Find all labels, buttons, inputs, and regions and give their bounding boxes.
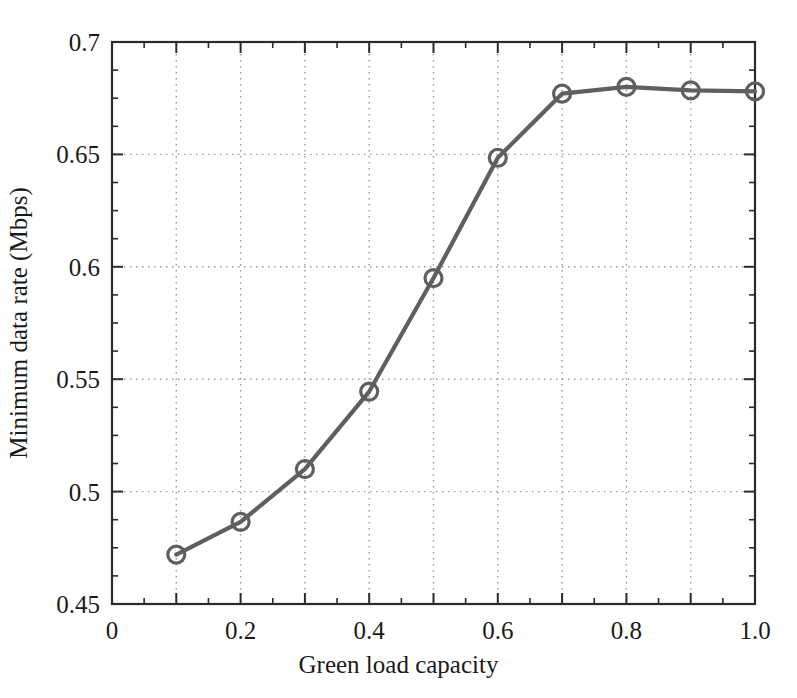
x-tick-label: 0.4 [354, 618, 385, 643]
chart-figure: 0.450.50.550.60.650.7 00.20.40.60.81.0 G… [0, 0, 797, 698]
data-point-marker [296, 461, 313, 478]
data-point-marker [747, 83, 764, 100]
y-axis-title: Minimum data rate (Mbps) [6, 187, 31, 458]
x-tick-label: 0.6 [482, 618, 513, 643]
grid-lines [112, 42, 755, 604]
y-tick-label: 0.45 [0, 592, 100, 617]
x-tick-label: 0.2 [225, 618, 256, 643]
data-point-marker [425, 270, 442, 287]
y-tick-label: 0.7 [0, 30, 100, 55]
data-point-markers [168, 78, 764, 563]
data-point-marker [682, 82, 699, 99]
data-point-marker [489, 149, 506, 166]
y-tick-label: 0.5 [0, 479, 100, 504]
data-point-marker [232, 513, 249, 530]
data-point-marker [361, 383, 378, 400]
data-point-marker [618, 78, 635, 95]
x-tick-label: 1.0 [739, 618, 770, 643]
data-point-marker [168, 546, 185, 563]
plot-canvas [0, 0, 797, 698]
x-tick-label: 0 [106, 618, 119, 643]
data-series-line [176, 87, 755, 555]
data-point-marker [554, 85, 571, 102]
x-tick-label: 0.8 [611, 618, 642, 643]
x-axis-title: Green load capacity [0, 652, 797, 677]
y-tick-label: 0.65 [0, 142, 100, 167]
